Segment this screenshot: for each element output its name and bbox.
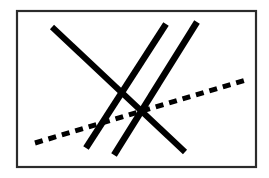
figure-page bbox=[0, 0, 269, 178]
figure-border bbox=[17, 11, 256, 167]
line-figure-canvas bbox=[0, 0, 269, 178]
